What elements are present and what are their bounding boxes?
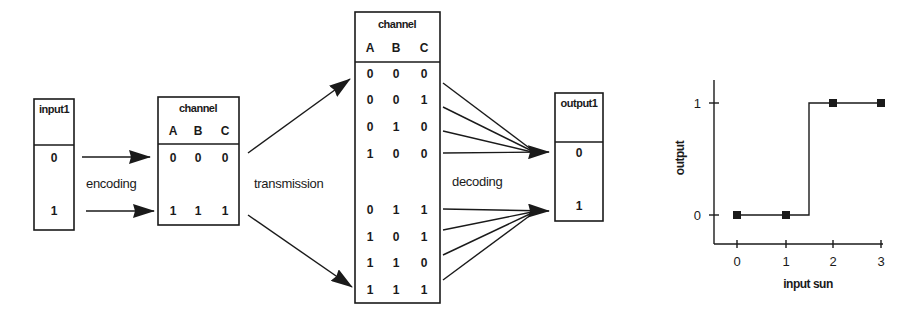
received-cell: 1 bbox=[393, 203, 400, 217]
received-cell: 1 bbox=[421, 283, 428, 297]
y-tick-label-1: 1 bbox=[694, 96, 701, 111]
input-table: input1 0 1 bbox=[34, 99, 74, 230]
y-tick-label-0: 0 bbox=[694, 208, 701, 223]
received-cell: 1 bbox=[367, 283, 374, 297]
decoding-line bbox=[443, 214, 532, 280]
decoding-arrows: decoding bbox=[443, 83, 549, 280]
received-col-c: C bbox=[420, 41, 429, 55]
input-value-1: 1 bbox=[51, 204, 58, 218]
received-cell: 1 bbox=[393, 256, 400, 270]
encoded-cell: 1 bbox=[170, 204, 177, 218]
input-value-0: 0 bbox=[51, 151, 58, 165]
received-cell: 1 bbox=[367, 230, 374, 244]
transmission-label: transmission bbox=[254, 176, 323, 191]
encoded-cell: 1 bbox=[195, 204, 202, 218]
received-cell: 1 bbox=[367, 147, 374, 161]
received-cell: 1 bbox=[421, 93, 428, 107]
received-col-b: B bbox=[392, 41, 401, 55]
input-table-header: input1 bbox=[39, 103, 69, 115]
output-value-0: 0 bbox=[576, 146, 583, 160]
received-cell: 0 bbox=[421, 120, 428, 134]
decoding-line bbox=[443, 83, 532, 150]
y-axis-label: output bbox=[673, 140, 687, 175]
decoding-line bbox=[443, 131, 532, 152]
received-cell: 0 bbox=[421, 256, 428, 270]
data-point-0 bbox=[733, 211, 741, 219]
received-col-a: A bbox=[366, 41, 375, 55]
received-cell: 0 bbox=[367, 120, 374, 134]
decoding-label: decoding bbox=[452, 174, 502, 189]
received-cell: 0 bbox=[393, 93, 400, 107]
data-point-3 bbox=[877, 99, 885, 107]
received-cell: 1 bbox=[393, 120, 400, 134]
x-axis-label: input sun bbox=[783, 277, 833, 291]
encoded-channel-table: channel A B C 0 0 0 1 1 1 bbox=[158, 97, 239, 225]
received-cell: 1 bbox=[367, 256, 374, 270]
encoded-col-a: A bbox=[169, 124, 178, 138]
received-cell: 1 bbox=[421, 230, 428, 244]
received-cell: 0 bbox=[367, 93, 374, 107]
received-channel-header: channel bbox=[378, 18, 417, 30]
x-tick-label-3: 3 bbox=[877, 254, 884, 269]
step-chart: 1 0 0 1 2 3 input sun output bbox=[673, 80, 885, 291]
decoding-line bbox=[443, 212, 532, 230]
decoding-line bbox=[443, 213, 532, 255]
encoded-col-c: C bbox=[221, 124, 230, 138]
received-cell: 0 bbox=[393, 147, 400, 161]
transmission-arrow-down bbox=[248, 215, 352, 287]
x-tick-label-1: 1 bbox=[782, 254, 789, 269]
received-cell: 0 bbox=[367, 67, 374, 81]
data-point-2 bbox=[829, 99, 837, 107]
received-cell: 0 bbox=[393, 230, 400, 244]
output-value-1: 1 bbox=[576, 199, 583, 213]
decoding-arrow-1 bbox=[443, 209, 549, 211]
encoded-cell: 0 bbox=[195, 151, 202, 165]
transmission-arrows: transmission bbox=[248, 79, 352, 287]
x-tick-label-0: 0 bbox=[733, 254, 740, 269]
received-cell: 0 bbox=[421, 67, 428, 81]
data-point-1 bbox=[782, 211, 790, 219]
received-cell: 1 bbox=[421, 203, 428, 217]
majority-code-diagram: input1 0 1 encoding channel A B C 0 0 0 … bbox=[0, 0, 920, 323]
transmission-arrow-up bbox=[248, 79, 350, 153]
step-line bbox=[737, 103, 881, 215]
encoded-cell: 1 bbox=[222, 204, 229, 218]
encoding-label: encoding bbox=[86, 176, 136, 191]
received-cell: 1 bbox=[393, 283, 400, 297]
received-channel-table: channel A B C 0 0 0 0 0 1 0 1 0 1 0 0 0 … bbox=[355, 12, 440, 303]
encoded-cell: 0 bbox=[170, 151, 177, 165]
x-tick-label-2: 2 bbox=[829, 254, 836, 269]
decoding-line bbox=[443, 107, 532, 151]
received-cell: 0 bbox=[367, 203, 374, 217]
encoded-channel-header: channel bbox=[179, 102, 218, 114]
encoded-cell: 0 bbox=[222, 151, 229, 165]
received-cell: 0 bbox=[393, 67, 400, 81]
output-table: output1 0 1 bbox=[555, 93, 603, 221]
output-table-header: output1 bbox=[561, 97, 598, 109]
encoding-arrows: encoding bbox=[82, 157, 154, 211]
received-cell: 0 bbox=[421, 147, 428, 161]
encoded-col-b: B bbox=[194, 124, 203, 138]
decoding-arrow-0 bbox=[443, 152, 549, 153]
